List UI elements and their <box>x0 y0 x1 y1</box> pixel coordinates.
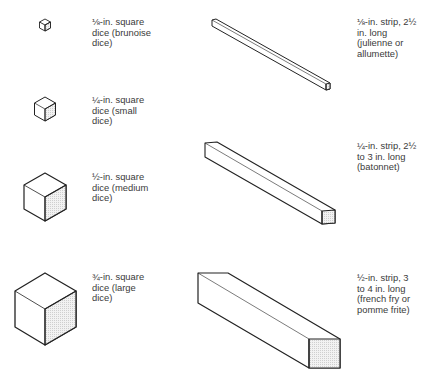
label-line: dice) <box>92 116 144 127</box>
label-line: dice) <box>92 193 148 204</box>
brunoise-cube-icon <box>40 19 51 31</box>
medium-dice-cube-icon <box>24 173 66 221</box>
batonnet-strip-icon <box>205 142 335 224</box>
label-line: ¾-in. square <box>92 272 144 283</box>
julienne-strip-icon <box>212 19 330 90</box>
label-line: dice) <box>92 38 151 49</box>
label-line: pomme frite) <box>357 305 410 316</box>
label-line: (batonnet) <box>357 162 416 173</box>
brunoise-dice-label: ⅛-in. square dice (brunoise dice) <box>92 17 151 49</box>
large-dice-label: ¾-in. square dice (large dice) <box>92 272 144 304</box>
label-line: ¼-in. strip, 2½ <box>357 141 416 152</box>
label-line: ¼-in. square <box>92 95 144 106</box>
small-dice-label: ¼-in. square dice (small dice) <box>92 95 144 127</box>
label-line: ½-in. square <box>92 172 148 183</box>
french-fry-strip-icon <box>198 273 340 368</box>
small-dice-cube-icon <box>35 97 56 121</box>
label-line: allumette) <box>357 49 416 60</box>
label-line: dice) <box>92 293 144 304</box>
label-line: ½-in. strip, 3 <box>357 273 410 284</box>
label-line: ⅛-in. square <box>92 17 151 28</box>
french-fry-strip-label: ½-in. strip, 3 to 4 in. long (french fry… <box>357 273 410 315</box>
label-line: ⅛-in. strip, 2½ <box>357 17 416 28</box>
batonnet-strip-label: ¼-in. strip, 2½ to 3 in. long (batonnet) <box>357 141 416 173</box>
medium-dice-label: ½-in. square dice (medium dice) <box>92 172 148 204</box>
large-dice-cube-icon <box>15 273 76 345</box>
julienne-strip-label: ⅛-in. strip, 2½ in. long (julienne or al… <box>357 17 416 59</box>
